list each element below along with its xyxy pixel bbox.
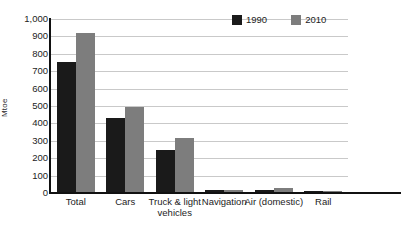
gridline xyxy=(51,123,348,124)
y-axis-tick-label: 500 xyxy=(8,101,48,111)
legend-swatch-2010 xyxy=(291,15,301,25)
bar-1990-total xyxy=(57,62,76,193)
gridline xyxy=(51,141,348,142)
gridline xyxy=(51,54,348,55)
bar-chart-figure: Mtoe 01002003004005006007008009001,000 1… xyxy=(0,0,415,232)
y-axis-tick-label: 1,000 xyxy=(8,14,48,24)
chart-legend: 19902010 xyxy=(232,14,350,26)
y-axis-tick-label: 600 xyxy=(8,84,48,94)
x-axis-tick-label: Rail xyxy=(293,196,355,207)
y-axis-tick-label: 0 xyxy=(8,188,48,198)
gridline xyxy=(51,89,348,90)
legend-entry-1990: 1990 xyxy=(232,15,267,25)
x-axis-tick-label-line: Rail xyxy=(293,196,355,207)
legend-label-2010: 2010 xyxy=(305,15,326,25)
legend-entry-2010: 2010 xyxy=(291,15,326,25)
gridline xyxy=(51,106,348,107)
bar-1990-cars xyxy=(106,118,125,193)
legend-label-1990: 1990 xyxy=(246,15,267,25)
y-axis-tick-label: 300 xyxy=(8,136,48,146)
bar-1990-truck-light-vehicles xyxy=(156,150,175,193)
plot-area xyxy=(51,19,348,193)
gridline xyxy=(51,176,348,177)
gridline xyxy=(51,36,348,37)
gridline xyxy=(51,71,348,72)
legend-swatch-1990 xyxy=(232,15,242,25)
y-axis-tick-label: 100 xyxy=(8,171,48,181)
gridline xyxy=(51,158,348,159)
y-axis-tick-label: 700 xyxy=(8,66,48,76)
bar-2010-cars xyxy=(125,107,144,193)
y-axis-tick-label: 800 xyxy=(8,49,48,59)
y-axis-tick-label: 900 xyxy=(8,31,48,41)
y-axis-tick-labels: 01002003004005006007008009001,000 xyxy=(8,0,48,232)
bar-2010-total xyxy=(76,33,95,193)
bar-2010-truck-light-vehicles xyxy=(175,138,194,193)
y-axis-tick-label: 400 xyxy=(8,118,48,128)
x-axis-line xyxy=(49,192,401,194)
y-axis-line xyxy=(49,18,51,194)
y-axis-tick-label: 200 xyxy=(8,153,48,163)
x-axis-tick-label-line: vehicles xyxy=(144,207,206,218)
